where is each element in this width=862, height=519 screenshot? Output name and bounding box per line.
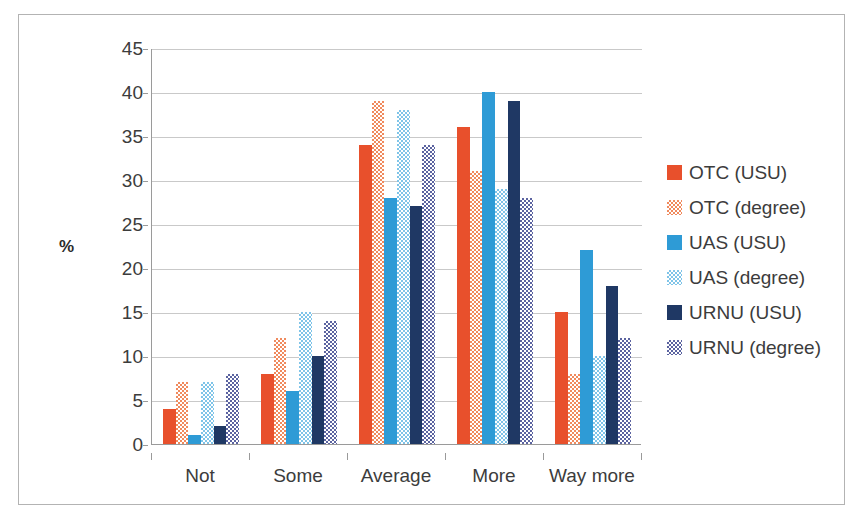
x-axis-tick-label: Not xyxy=(151,465,249,487)
chart-figure: % 454035302520151050 NotSomeAverageMoreW… xyxy=(0,0,862,519)
y-axis-tick-label: 0 xyxy=(99,435,143,454)
bar-average-series-5 xyxy=(422,145,435,444)
bar-some-series-1 xyxy=(274,338,287,444)
bar-not-series-0 xyxy=(163,409,176,444)
bar-not-series-1 xyxy=(176,382,189,444)
chart-legend: OTC (USU)OTC (degree)UAS (USU)UAS (degre… xyxy=(667,155,857,365)
legend-label: OTC (USU) xyxy=(689,163,787,182)
bar-more-series-4 xyxy=(508,101,521,444)
gridline xyxy=(152,93,642,94)
legend-item-0[interactable]: OTC (USU) xyxy=(667,155,857,190)
bar-way-more-series-0 xyxy=(555,312,568,444)
legend-label: UAS (degree) xyxy=(689,268,805,287)
legend-swatch-icon xyxy=(667,270,682,285)
y-axis-tick-mark xyxy=(143,357,148,358)
x-axis-tick-label: More xyxy=(445,465,543,487)
bar-way-more-series-2 xyxy=(580,250,593,444)
bar-more-series-1 xyxy=(470,171,483,444)
legend-label: OTC (degree) xyxy=(689,198,806,217)
x-axis-tick-labels: NotSomeAverageMoreWay more xyxy=(151,453,641,493)
y-axis-tick-mark xyxy=(143,269,148,270)
bar-more-series-3 xyxy=(495,189,508,444)
x-axis-tick-label: Some xyxy=(249,465,347,487)
bar-way-more-series-3 xyxy=(593,356,606,444)
bar-average-series-4 xyxy=(410,206,423,444)
y-axis-tick-mark xyxy=(143,137,148,138)
y-axis-tick-label: 35 xyxy=(99,127,143,146)
x-axis-tick-mark xyxy=(543,453,544,460)
y-axis-tick-label: 25 xyxy=(99,215,143,234)
legend-label: UAS (USU) xyxy=(689,233,786,252)
y-axis-tick-mark xyxy=(143,49,148,50)
y-axis-tick-mark xyxy=(143,313,148,314)
bar-average-series-0 xyxy=(359,145,372,444)
legend-item-2[interactable]: UAS (USU) xyxy=(667,225,857,260)
bar-some-series-3 xyxy=(299,312,312,444)
bar-more-series-5 xyxy=(520,198,533,444)
bar-more-series-0 xyxy=(457,127,470,444)
bar-way-more-series-1 xyxy=(568,374,581,444)
y-axis-tick-label: 30 xyxy=(99,171,143,190)
bar-some-series-2 xyxy=(286,391,299,444)
legend-swatch-icon xyxy=(667,200,682,215)
legend-swatch-icon xyxy=(667,305,682,320)
bar-some-series-5 xyxy=(324,321,337,444)
legend-item-5[interactable]: URNU (degree) xyxy=(667,330,857,365)
y-axis-tick-mark xyxy=(143,225,148,226)
x-axis-tick-label: Way more xyxy=(543,465,641,487)
y-axis-tick-mark xyxy=(143,401,148,402)
x-axis-tick-mark xyxy=(151,453,152,460)
bar-way-more-series-5 xyxy=(618,338,631,444)
chart-frame: % 454035302520151050 NotSomeAverageMoreW… xyxy=(18,14,845,505)
bar-average-series-1 xyxy=(372,101,385,444)
legend-item-4[interactable]: URNU (USU) xyxy=(667,295,857,330)
y-axis-tick-mark xyxy=(143,93,148,94)
y-axis-tick-label: 45 xyxy=(99,39,143,58)
y-axis-tick-label: 40 xyxy=(99,83,143,102)
y-axis-tick-labels: 454035302520151050 xyxy=(91,49,143,445)
y-axis-tick-label: 5 xyxy=(99,391,143,410)
bar-some-series-0 xyxy=(261,374,274,444)
bar-not-series-2 xyxy=(188,435,201,444)
x-axis-tick-mark xyxy=(249,453,250,460)
y-axis-tick-mark xyxy=(143,181,148,182)
bar-not-series-4 xyxy=(214,426,227,444)
y-axis-tick-label: 10 xyxy=(99,347,143,366)
y-axis-tick-label: 20 xyxy=(99,259,143,278)
x-axis-tick-mark xyxy=(641,453,642,460)
bar-some-series-4 xyxy=(312,356,325,444)
legend-swatch-icon xyxy=(667,165,682,180)
bar-not-series-5 xyxy=(226,374,239,444)
gridline xyxy=(152,49,642,50)
legend-label: URNU (degree) xyxy=(689,338,821,357)
x-axis-tick-mark xyxy=(445,453,446,460)
bar-not-series-3 xyxy=(201,382,214,444)
bar-average-series-3 xyxy=(397,110,410,444)
legend-label: URNU (USU) xyxy=(689,303,802,322)
legend-item-1[interactable]: OTC (degree) xyxy=(667,190,857,225)
legend-item-3[interactable]: UAS (degree) xyxy=(667,260,857,295)
y-axis-tick-label: 15 xyxy=(99,303,143,322)
legend-swatch-icon xyxy=(667,235,682,250)
bar-average-series-2 xyxy=(384,198,397,444)
plot-area xyxy=(151,49,641,445)
bar-more-series-2 xyxy=(482,92,495,444)
x-axis-tick-label: Average xyxy=(347,465,445,487)
bar-way-more-series-4 xyxy=(606,286,619,444)
y-axis-tick-mark xyxy=(143,445,148,446)
y-axis-title: % xyxy=(59,237,74,257)
x-axis-tick-mark xyxy=(347,453,348,460)
legend-swatch-icon xyxy=(667,340,682,355)
